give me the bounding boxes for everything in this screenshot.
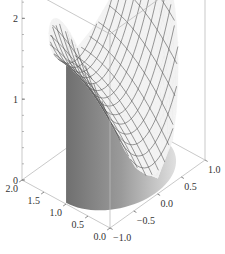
x-tick-label: 1.5 — [28, 195, 41, 206]
x-tick — [63, 204, 66, 206]
y-tick — [110, 228, 113, 229]
x-tick-label: 0.5 — [72, 219, 85, 230]
y-tick-label: −1.0 — [113, 232, 131, 243]
z-tick-label: 1 — [13, 94, 18, 105]
y-tick-label: 1.0 — [208, 164, 221, 175]
y-tick — [134, 211, 137, 212]
surface-plot: 0.00.51.01.52.0−1.0−0.50.00.51.0012 — [0, 0, 225, 254]
z-tick-label: 2 — [13, 13, 18, 24]
y-tick-label: 0.0 — [161, 198, 174, 209]
z-tick-label: 0 — [13, 175, 18, 186]
y-tick — [181, 177, 184, 178]
y-tick-label: 0.5 — [184, 181, 197, 192]
y-tick — [158, 194, 161, 195]
x-tick — [85, 216, 88, 218]
x-tick — [107, 228, 110, 230]
x-tick — [41, 192, 44, 194]
x-tick-label: 1.0 — [50, 207, 63, 218]
y-tick-label: −0.5 — [137, 215, 155, 226]
y-tick — [205, 160, 208, 161]
x-tick-label: 0.0 — [94, 231, 107, 242]
x-tick — [19, 180, 22, 182]
